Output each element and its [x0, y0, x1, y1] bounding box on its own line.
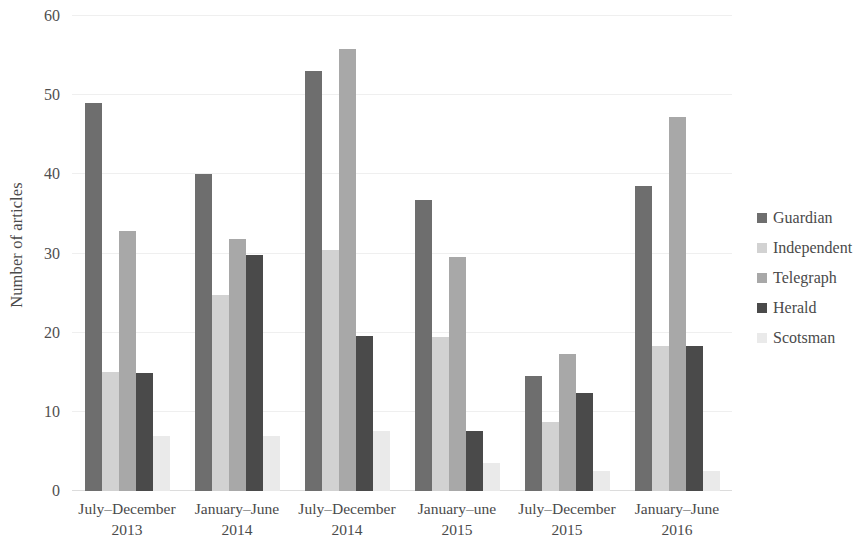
bar-telegraph[interactable] — [449, 257, 466, 491]
x-axis-tick-labels: July–December 2013January–June 2014July–… — [72, 498, 732, 540]
plot-area — [72, 16, 732, 491]
bar-guardian[interactable] — [525, 376, 542, 491]
legend-label: Scotsman — [773, 329, 835, 347]
legend-swatch-icon — [757, 243, 767, 253]
bar-telegraph[interactable] — [669, 117, 686, 491]
legend-swatch-icon — [757, 333, 767, 343]
y-tick-label-20: 20 — [44, 324, 60, 342]
bar-telegraph[interactable] — [339, 49, 356, 491]
x-tick-label: July–December 2013 — [72, 498, 182, 540]
bar-guardian[interactable] — [195, 174, 212, 491]
legend-item-telegraph[interactable]: Telegraph — [757, 263, 865, 293]
bar-herald[interactable] — [246, 255, 263, 491]
bar-scotsman[interactable] — [373, 431, 390, 491]
y-tick-label-50: 50 — [44, 86, 60, 104]
y-tick-label-40: 40 — [44, 165, 60, 183]
bar-herald[interactable] — [576, 393, 593, 491]
bar-telegraph[interactable] — [119, 231, 136, 491]
bar-scotsman[interactable] — [263, 436, 280, 491]
bar-independent[interactable] — [102, 372, 119, 491]
bar-group — [182, 16, 292, 491]
bar-independent[interactable] — [542, 422, 559, 491]
bar-herald[interactable] — [466, 431, 483, 491]
bar-group — [622, 16, 732, 491]
bar-group — [292, 16, 402, 491]
bar-scotsman[interactable] — [593, 471, 610, 491]
bar-chart: Number of articles 0102030405060 July–De… — [0, 0, 867, 556]
chart-legend: GuardianIndependentTelegraphHeraldScotsm… — [757, 203, 865, 353]
legend-item-independent[interactable]: Independent — [757, 233, 865, 263]
bar-scotsman[interactable] — [483, 463, 500, 491]
bar-herald[interactable] — [356, 336, 373, 491]
y-tick-label-0: 0 — [52, 482, 60, 500]
bar-independent[interactable] — [652, 346, 669, 491]
legend-item-guardian[interactable]: Guardian — [757, 203, 865, 233]
bar-guardian[interactable] — [635, 186, 652, 491]
bar-telegraph[interactable] — [229, 239, 246, 491]
y-tick-label-10: 10 — [44, 403, 60, 421]
bar-independent[interactable] — [212, 295, 229, 491]
x-tick-label: July–December 2015 — [512, 498, 622, 540]
bar-herald[interactable] — [686, 346, 703, 491]
legend-swatch-icon — [757, 303, 767, 313]
bar-group — [512, 16, 622, 491]
x-tick-label: January–June 2014 — [182, 498, 292, 540]
x-tick-label: July–December 2014 — [292, 498, 402, 540]
bar-groups — [72, 16, 732, 491]
y-tick-label-60: 60 — [44, 7, 60, 25]
bar-independent[interactable] — [432, 337, 449, 491]
legend-item-herald[interactable]: Herald — [757, 293, 865, 323]
bar-scotsman[interactable] — [153, 436, 170, 491]
x-tick-label: January–une 2015 — [402, 498, 512, 540]
legend-label: Herald — [773, 299, 817, 317]
bar-scotsman[interactable] — [703, 471, 720, 491]
bar-guardian[interactable] — [85, 103, 102, 491]
legend-label: Independent — [773, 239, 852, 257]
bar-independent[interactable] — [322, 250, 339, 491]
legend-item-scotsman[interactable]: Scotsman — [757, 323, 865, 353]
legend-swatch-icon — [757, 213, 767, 223]
bar-telegraph[interactable] — [559, 354, 576, 491]
x-tick-label: January–June 2016 — [622, 498, 732, 540]
bar-herald[interactable] — [136, 373, 153, 491]
legend-label: Guardian — [773, 209, 833, 227]
bar-group — [402, 16, 512, 491]
bar-guardian[interactable] — [305, 71, 322, 491]
legend-swatch-icon — [757, 273, 767, 283]
bar-guardian[interactable] — [415, 200, 432, 491]
legend-label: Telegraph — [773, 269, 837, 287]
y-tick-label-30: 30 — [44, 245, 60, 263]
bar-group — [72, 16, 182, 491]
y-axis-tick-labels: 0102030405060 — [24, 16, 66, 491]
